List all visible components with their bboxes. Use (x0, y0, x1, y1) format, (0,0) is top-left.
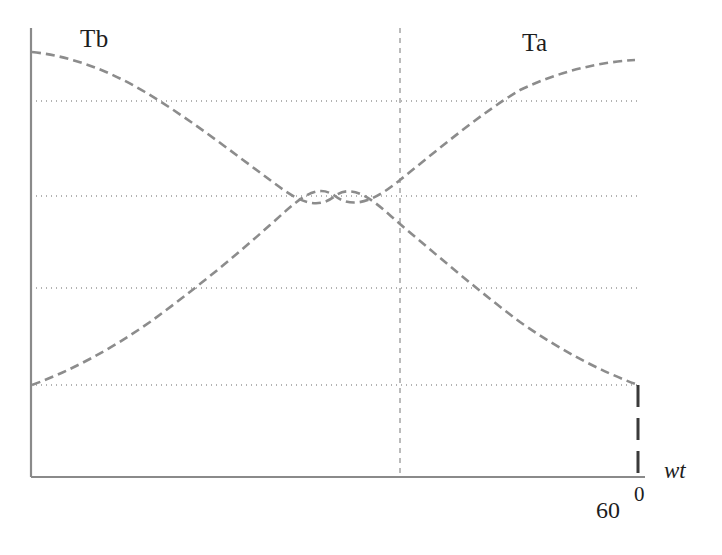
series-label-ta: Ta (522, 30, 548, 55)
plot-canvas (0, 0, 722, 555)
chart-figure: Tb Ta wt 0 60 (0, 0, 722, 555)
series-curve-ta (32, 60, 635, 385)
x-tick-label-zero-degree: 0 (634, 484, 645, 505)
x-axis-label: wt (664, 459, 686, 482)
x-tick-label-sixty: 60 (596, 498, 620, 522)
series-label-tb: Tb (80, 26, 109, 51)
series-curve-tb (32, 52, 638, 385)
